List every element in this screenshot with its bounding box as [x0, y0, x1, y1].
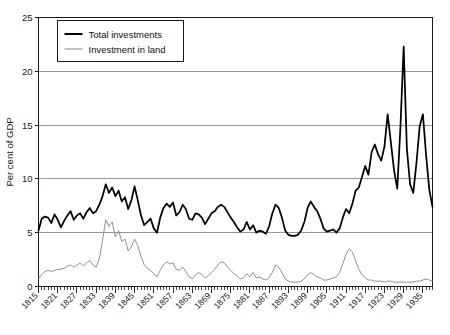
x-axis-label-1929: 1929 [384, 290, 405, 311]
legend-label-investment-in-land: Investment in land [89, 44, 166, 55]
chart-container: 0510152025 18151821182718331839184518511… [0, 0, 450, 335]
y-axis-label-10: 10 [22, 173, 33, 184]
x-axis-label-1815: 1815 [19, 290, 40, 311]
y-axis-label-20: 20 [22, 66, 33, 77]
x-axis-label-1887: 1887 [250, 290, 271, 311]
x-axis-ticks [39, 287, 433, 293]
y-axis-title: Per cent of GDP [4, 117, 15, 186]
x-axis-label-1845: 1845 [115, 290, 136, 311]
x-axis-label-1911: 1911 [327, 290, 347, 310]
x-axis-label-1893: 1893 [269, 290, 290, 311]
x-axis-label-1851: 1851 [135, 290, 156, 311]
x-axis-label-1863: 1863 [173, 290, 194, 311]
x-axis-label-1833: 1833 [77, 290, 98, 311]
x-axis-label-1857: 1857 [154, 290, 175, 311]
x-axis-label-1923: 1923 [365, 290, 386, 311]
x-axis-label-1839: 1839 [96, 290, 117, 311]
y-axis-label-5: 5 [27, 227, 32, 238]
x-axis-label-1881: 1881 [231, 290, 252, 311]
x-axis-label-1875: 1875 [212, 290, 233, 311]
chart-legend: Total investmentsInvestment in land [58, 21, 184, 62]
x-axis-label-1905: 1905 [308, 290, 329, 311]
x-axis-labels: 1815182118271833183918451851185718631869… [19, 290, 424, 311]
x-axis-label-1899: 1899 [288, 290, 309, 311]
y-axis-labels: 0510152025 [22, 12, 33, 292]
legend-box [58, 21, 184, 62]
data-series [39, 47, 433, 283]
legend-label-total-investments: Total investments [89, 29, 163, 40]
series-line-investment-in-land [39, 220, 433, 282]
x-axis-label-1869: 1869 [192, 290, 213, 311]
y-axis-label-15: 15 [22, 120, 33, 131]
x-axis-label-1917: 1917 [346, 290, 367, 311]
investment-line-chart: 0510152025 18151821182718331839184518511… [0, 0, 450, 335]
x-axis-label-1827: 1827 [58, 290, 79, 311]
x-axis-label-1821: 1821 [39, 290, 60, 311]
x-axis-label-1935: 1935 [404, 290, 425, 311]
series-line-total-investments [39, 47, 433, 236]
y-axis-label-25: 25 [22, 12, 33, 23]
